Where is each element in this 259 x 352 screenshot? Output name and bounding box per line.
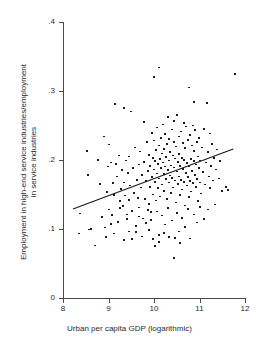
x-tick-mark (63, 299, 64, 303)
x-tick-mark (109, 299, 110, 303)
y-tick-label: .2 (37, 156, 55, 164)
y-tick-label: .1 (37, 225, 55, 233)
scatter-chart: 0.1.2.3.4 89101112 Urban per capita GDP … (0, 0, 259, 352)
x-tick-label: 10 (144, 305, 164, 313)
x-tick-mark (245, 299, 246, 303)
x-tick-mark (200, 299, 201, 303)
x-tick-mark (154, 299, 155, 303)
y-tick-label: 0 (37, 294, 55, 302)
x-tick-label: 11 (190, 305, 210, 313)
y-axis-title-line-2: in service industries (29, 47, 39, 277)
y-axis-title-line-1: Employment in high-end service industrie… (19, 47, 29, 277)
x-tick-label: 8 (53, 305, 73, 313)
y-tick-label: .3 (37, 87, 55, 95)
x-axis-title: Urban per capita GDP (logarithmic) (0, 324, 259, 333)
y-axis-title: Employment in high-end service industrie… (19, 47, 39, 277)
x-tick-label: 12 (235, 305, 255, 313)
regression-line (63, 22, 245, 298)
y-tick-label: .4 (37, 18, 55, 26)
plot-area (63, 22, 245, 298)
x-tick-label: 9 (99, 305, 119, 313)
